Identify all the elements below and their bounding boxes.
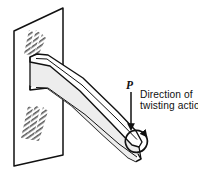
figure-canvas [0, 0, 198, 172]
technical-figure: P Direction of twisting action [0, 0, 198, 172]
